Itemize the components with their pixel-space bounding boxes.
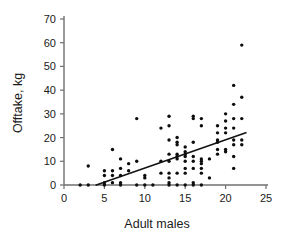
data-point [167, 171, 170, 174]
x-tick-label: 25 [260, 192, 272, 204]
data-point [216, 131, 219, 134]
data-point [232, 103, 235, 106]
data-point [232, 117, 235, 120]
data-point [192, 117, 195, 120]
data-point [216, 148, 219, 151]
data-point [103, 169, 106, 172]
data-point [175, 136, 178, 139]
data-point [119, 167, 122, 170]
data-point [232, 155, 235, 158]
data-point [240, 117, 243, 120]
data-point [224, 150, 227, 153]
y-axis-title: Offtake, kg [11, 73, 25, 133]
data-point [192, 167, 195, 170]
data-point [167, 176, 170, 179]
data-point [224, 112, 227, 115]
x-tick-label: 0 [61, 192, 67, 204]
y-tick-label: 60 [44, 37, 56, 49]
data-point [240, 43, 243, 46]
data-point [103, 183, 106, 186]
data-point [200, 167, 203, 170]
data-point [200, 162, 203, 165]
plot-canvas: 010203040506070 0510152025 Adult males O… [0, 0, 290, 239]
x-tick-label: 5 [101, 192, 107, 204]
data-point [184, 171, 187, 174]
data-point [232, 126, 235, 129]
data-point [143, 176, 146, 179]
data-point [184, 167, 187, 170]
data-point [232, 138, 235, 141]
x-tick-label: 20 [219, 192, 231, 204]
y-tick-label: 30 [44, 108, 56, 120]
data-point [119, 183, 122, 186]
data-point [192, 183, 195, 186]
data-point [200, 124, 203, 127]
y-tick-label: 20 [44, 132, 56, 144]
data-point [159, 126, 162, 129]
data-point [216, 152, 219, 155]
data-point [200, 171, 203, 174]
data-point [208, 157, 211, 160]
y-tick-label: 0 [50, 179, 56, 191]
data-point [240, 143, 243, 146]
data-point [232, 143, 235, 146]
data-point [111, 169, 114, 172]
data-point [111, 148, 114, 151]
data-point [103, 174, 106, 177]
scatter-plot-figure: 010203040506070 0510152025 Adult males O… [0, 0, 290, 239]
data-point [184, 183, 187, 186]
data-point [167, 138, 170, 141]
data-point [224, 131, 227, 134]
data-point [167, 124, 170, 127]
data-point [127, 169, 130, 172]
data-point [240, 138, 243, 141]
data-point [159, 171, 162, 174]
data-point [224, 126, 227, 129]
y-tick-label: 70 [44, 13, 56, 25]
data-point [167, 152, 170, 155]
data-point [232, 167, 235, 170]
data-point [208, 176, 211, 179]
data-point [127, 162, 130, 165]
x-tick-label: 15 [179, 192, 191, 204]
data-point [184, 155, 187, 158]
data-point [87, 183, 90, 186]
data-point [192, 155, 195, 158]
y-tick-label: 10 [44, 155, 56, 167]
data-point [135, 183, 138, 186]
data-point [119, 157, 122, 160]
data-point [192, 160, 195, 163]
data-point [175, 171, 178, 174]
data-point [200, 183, 203, 186]
data-point [167, 115, 170, 118]
page-edge-filler [0, 231, 290, 239]
data-point [167, 183, 170, 186]
data-point [135, 117, 138, 120]
x-axis-title: Adult males [124, 217, 189, 231]
x-tick-label: 10 [139, 192, 151, 204]
data-point [224, 119, 227, 122]
data-point [200, 117, 203, 120]
data-point [175, 183, 178, 186]
data-point [111, 181, 114, 184]
data-point [175, 143, 178, 146]
data-point [143, 183, 146, 186]
data-point [151, 183, 154, 186]
data-point [192, 141, 195, 144]
data-point [135, 160, 138, 163]
data-point [87, 164, 90, 167]
data-point [111, 174, 114, 177]
y-tick-label: 40 [44, 84, 56, 96]
data-point [78, 183, 81, 186]
data-point [240, 96, 243, 99]
data-point [216, 124, 219, 127]
y-tick-label: 50 [44, 60, 56, 72]
data-point [184, 160, 187, 163]
data-point [232, 84, 235, 87]
data-point [184, 145, 187, 148]
